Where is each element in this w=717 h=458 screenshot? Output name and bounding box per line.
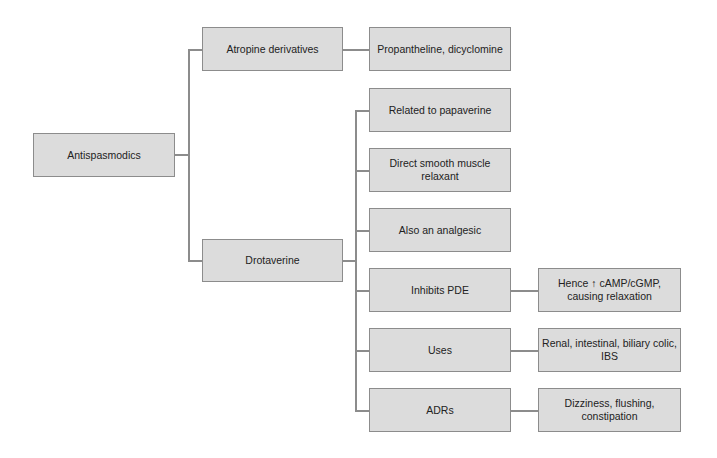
node-label: Inhibits PDE — [411, 284, 469, 297]
connector-to-atropine — [188, 49, 202, 51]
node-pde-effect: Hence ↑ cAMP/cGMP, causing relaxation — [538, 268, 681, 312]
node-uses-detail: Renal, intestinal, biliary colic, IBS — [538, 328, 681, 372]
node-adrs-detail: Dizziness, flushing, constipation — [538, 388, 681, 432]
connector-branch-2 — [355, 170, 369, 172]
node-label: Also an analgesic — [399, 224, 481, 237]
connector-branch-6 — [355, 410, 369, 412]
connector-drotaverine-trunk — [355, 110, 357, 411]
node-label: Propantheline, dicyclomine — [377, 43, 503, 56]
node-direct-smooth-muscle-relaxant: Direct smooth muscle relaxant — [369, 148, 511, 192]
connector-to-drotaverine — [188, 260, 202, 262]
connector-atropine-to-child — [343, 49, 369, 51]
node-uses: Uses — [369, 328, 511, 372]
node-label: Drotaverine — [245, 254, 299, 267]
node-drotaverine: Drotaverine — [202, 239, 343, 282]
node-label: Related to papaverine — [389, 104, 492, 117]
node-propantheline-dicyclomine: Propantheline, dicyclomine — [369, 27, 511, 71]
connector-branch-5 — [355, 350, 369, 352]
node-adrs: ADRs — [369, 388, 511, 432]
connector-branch-4 — [355, 290, 369, 292]
node-label: Uses — [428, 344, 452, 357]
connector-adrs-detail — [511, 410, 538, 412]
node-related-to-papaverine: Related to papaverine — [369, 88, 511, 132]
node-label: Direct smooth muscle relaxant — [373, 157, 507, 183]
node-inhibits-pde: Inhibits PDE — [369, 268, 511, 312]
node-label: ADRs — [426, 404, 453, 417]
connector-branch-3 — [355, 230, 369, 232]
node-label: Antispasmodics — [67, 149, 141, 162]
node-antispasmodics: Antispasmodics — [33, 133, 175, 177]
node-label: Atropine derivatives — [226, 43, 318, 56]
node-label: Dizziness, flushing, constipation — [557, 397, 662, 423]
connector-uses-detail — [511, 350, 538, 352]
node-atropine-derivatives: Atropine derivatives — [202, 27, 343, 71]
connector-root-trunk — [188, 49, 190, 261]
connector-root-out — [175, 154, 189, 156]
node-label: Hence ↑ cAMP/cGMP, causing relaxation — [553, 277, 666, 303]
node-label: Renal, intestinal, biliary colic, IBS — [542, 337, 677, 363]
connector-branch-1 — [355, 110, 369, 112]
connector-pde-detail — [511, 290, 538, 292]
node-also-an-analgesic: Also an analgesic — [369, 208, 511, 252]
